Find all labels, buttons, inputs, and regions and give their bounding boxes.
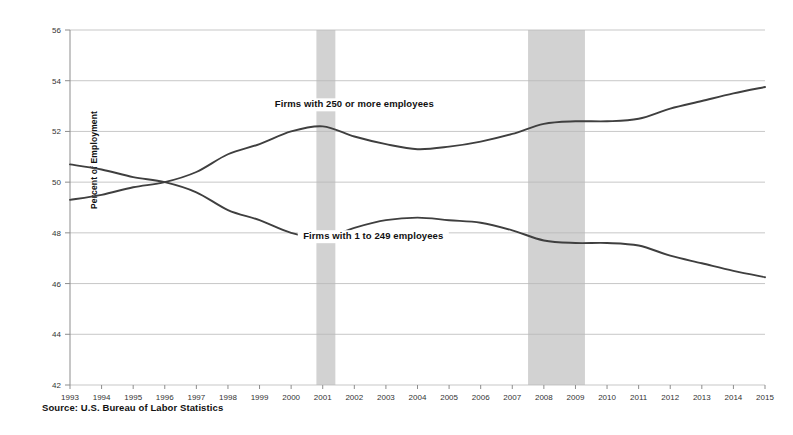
y-tick-label-44: 44 bbox=[52, 330, 61, 339]
small-firms-label: Firms with 1 to 249 employees bbox=[303, 230, 443, 241]
x-tick-label-2014: 2014 bbox=[725, 393, 743, 400]
x-tick-label-2004: 2004 bbox=[409, 393, 427, 400]
x-tick-label-1998: 1998 bbox=[219, 393, 237, 400]
x-tick-label-2012: 2012 bbox=[661, 393, 679, 400]
y-tick-label-50: 50 bbox=[52, 178, 61, 187]
chart-container: Percent of Employment 424446485052545619… bbox=[0, 0, 793, 435]
chart-plot-svg-wrapper: 4244464850525456199319941995199619971998… bbox=[0, 0, 793, 404]
x-tick-label-2008: 2008 bbox=[535, 393, 553, 400]
x-tick-label-2005: 2005 bbox=[440, 393, 458, 400]
x-tick-label-2013: 2013 bbox=[693, 393, 711, 400]
y-tick-label-54: 54 bbox=[52, 77, 61, 86]
x-tick-label-2015: 2015 bbox=[756, 393, 774, 400]
y-tick-label-52: 52 bbox=[52, 127, 61, 136]
x-tick-label-2000: 2000 bbox=[282, 393, 300, 400]
x-tick-label-1995: 1995 bbox=[124, 393, 142, 400]
y-tick-label-42: 42 bbox=[52, 381, 61, 390]
x-tick-label-2002: 2002 bbox=[345, 393, 363, 400]
x-tick-label-1996: 1996 bbox=[156, 393, 174, 400]
x-tick-label-2006: 2006 bbox=[472, 393, 490, 400]
y-tick-label-46: 46 bbox=[52, 280, 61, 289]
shaded-region-recession-2008 bbox=[528, 30, 585, 385]
large-firms-label: Firms with 250 or more employees bbox=[275, 98, 434, 109]
line-chart: 4244464850525456199319941995199619971998… bbox=[0, 0, 793, 400]
x-tick-label-2009: 2009 bbox=[567, 393, 585, 400]
series-line-1 bbox=[70, 164, 765, 277]
x-tick-label-1999: 1999 bbox=[251, 393, 269, 400]
x-tick-label-1994: 1994 bbox=[93, 393, 111, 400]
x-tick-label-1993: 1993 bbox=[61, 393, 79, 400]
x-tick-label-2007: 2007 bbox=[503, 393, 521, 400]
x-tick-label-2001: 2001 bbox=[314, 393, 332, 400]
y-tick-label-48: 48 bbox=[52, 229, 61, 238]
x-tick-label-1997: 1997 bbox=[187, 393, 205, 400]
y-tick-label-56: 56 bbox=[52, 26, 61, 35]
shaded-region-recession-2001 bbox=[316, 30, 335, 385]
x-tick-label-2003: 2003 bbox=[377, 393, 395, 400]
x-tick-label-2011: 2011 bbox=[630, 393, 648, 400]
source-note: Source: U.S. Bureau of Labor Statistics bbox=[42, 402, 223, 413]
x-tick-label-2010: 2010 bbox=[598, 393, 616, 400]
